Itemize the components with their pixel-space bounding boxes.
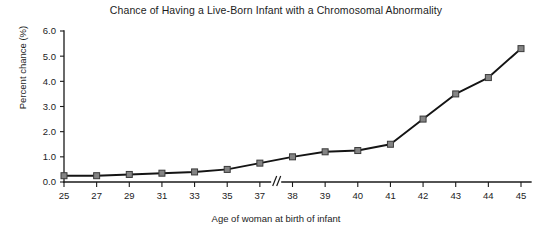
x-tick-label: 40: [352, 190, 363, 201]
x-tick-label: 44: [483, 190, 494, 201]
y-tick-label: 4.0: [43, 76, 56, 87]
data-point-marker: [290, 154, 296, 160]
chart-figure: Chance of Having a Live-Born Infant with…: [0, 0, 552, 237]
y-tick-label: 0.0: [43, 176, 56, 187]
data-point-marker: [355, 148, 361, 154]
x-tick-label: 33: [189, 190, 200, 201]
data-point-marker: [485, 75, 491, 81]
data-point-marker: [126, 171, 132, 177]
data-point-marker: [224, 166, 230, 172]
x-tick-label: 35: [222, 190, 233, 201]
data-point-marker: [453, 91, 459, 97]
data-point-marker: [257, 160, 263, 166]
data-point-marker: [159, 170, 165, 176]
y-tick-label: 5.0: [43, 51, 56, 62]
y-tick-label: 1.0: [43, 151, 56, 162]
x-tick-label: 37: [255, 190, 266, 201]
x-tick-label: 42: [418, 190, 429, 201]
x-axis-tick-labels: 252729313335373839404142434445: [59, 190, 527, 201]
data-point-marker: [420, 116, 426, 122]
data-point-marker: [61, 173, 67, 179]
x-tick-label: 27: [91, 190, 102, 201]
data-point-marker: [387, 141, 393, 147]
axis-break-marker: [271, 176, 281, 188]
y-axis-tick-labels: 0.01.02.03.04.05.06.0: [43, 25, 56, 187]
y-tick-label: 6.0: [43, 25, 56, 36]
x-tick-label: 41: [385, 190, 396, 201]
data-point-marker: [322, 149, 328, 155]
x-tick-label: 45: [516, 190, 527, 201]
x-tick-label: 38: [287, 190, 298, 201]
data-point-marker: [94, 173, 100, 179]
x-tick-label: 39: [320, 190, 331, 201]
x-tick-label: 29: [124, 190, 135, 201]
y-tick-label: 2.0: [43, 126, 56, 137]
x-tick-label: 31: [157, 190, 168, 201]
x-axis-tick-marks: [64, 182, 521, 187]
data-series-markers: [61, 46, 524, 179]
y-tick-label: 3.0: [43, 101, 56, 112]
data-point-marker: [192, 169, 198, 175]
x-tick-label: 25: [59, 190, 70, 201]
x-tick-label: 43: [450, 190, 461, 201]
data-point-marker: [518, 46, 524, 52]
plot-area: 0.01.02.03.04.05.06.0 252729313335373839…: [0, 0, 552, 237]
